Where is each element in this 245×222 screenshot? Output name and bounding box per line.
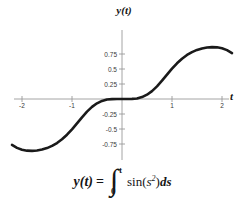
x-tick-label: -1 — [69, 102, 75, 109]
y-tick-label: 0.25 — [104, 81, 117, 88]
integral-upper-limit: t — [119, 165, 122, 175]
formula-equals: = — [96, 174, 104, 189]
y-tick-label: -0.75 — [102, 141, 117, 148]
y-tick-label: -0.5 — [106, 126, 117, 133]
integral-group: ∫t0 — [107, 168, 127, 198]
formula-differential: ds — [160, 174, 172, 189]
y-tick-label: 0.5 — [108, 66, 117, 73]
x-tick-label: 2 — [220, 102, 224, 109]
y-tick-label: 0.75 — [104, 51, 117, 58]
y-tick-label: -0.25 — [102, 111, 117, 118]
formula-function-name: sin( — [127, 174, 147, 189]
integral-lower-limit: 0 — [111, 186, 116, 196]
formula-caption: y(t)=∫t0sin(s2)ds — [0, 168, 245, 198]
fresnel-integral-figure: y(t) t -2-1120.750.50.25-0.25-0.5-0.75 y… — [0, 0, 245, 222]
formula-lhs: y(t) — [74, 174, 93, 189]
x-tick-label: 1 — [170, 102, 174, 109]
x-tick-label: -2 — [19, 102, 25, 109]
